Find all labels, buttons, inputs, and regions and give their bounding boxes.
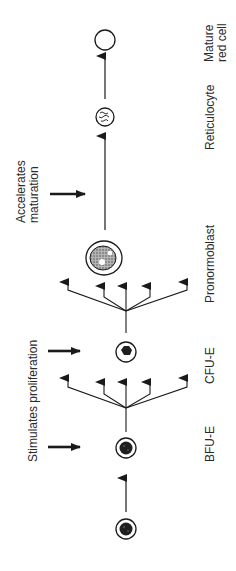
pronormoblast-icon [86,241,122,275]
label-mature-line2: red cell [216,23,229,62]
erythropoiesis-diagram [0,0,236,571]
cfu-e-cell-icon [116,342,136,362]
mature-red-cell-icon [95,30,115,50]
label-stimulates-proliferation: Stimulates proliferation [27,340,40,462]
label-accelerates-line2: maturation [28,160,41,223]
reticulocyte-icon [96,108,114,126]
label-bfu-e: BFU-E [204,426,217,462]
proliferation-fan-cfu-e [68,282,187,333]
label-pronormoblast: Pronormoblast [204,225,217,303]
label-reticulocyte: Reticulocyte [204,85,217,150]
bfu-e-cell-icon [116,438,136,458]
label-mature-red-cell: Mature red cell [203,23,229,62]
label-cfu-e: CFU-E [204,347,217,384]
stem-cell-icon [116,519,136,539]
label-accelerates-maturation: Accelerates maturation [15,160,41,223]
proliferation-fan-bfu-e [68,378,187,432]
